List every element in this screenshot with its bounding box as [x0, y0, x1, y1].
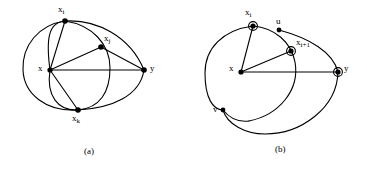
node-xi	[62, 18, 68, 24]
node-xi1	[288, 48, 293, 53]
node-label-xi: xi	[58, 5, 64, 14]
node-label-x: x	[229, 64, 234, 73]
node-xj	[98, 44, 104, 50]
figure-panel-b: x xi u xi+1 y v (b)	[183, 0, 367, 174]
panel-b-caption: (b)	[275, 144, 286, 154]
node-label-xk: xk	[72, 114, 80, 123]
figure-root: x xi xj xk y (a)	[0, 0, 367, 174]
node-xi	[250, 23, 255, 28]
arc-inner-circle-left	[23, 21, 78, 110]
node-label-y: y	[150, 64, 155, 73]
arc-y-bottom-to-v	[223, 72, 338, 134]
node-y	[141, 67, 147, 73]
node-label-xi: xi	[245, 8, 251, 17]
node-label-xi1: xi+1	[296, 38, 310, 47]
node-label-xj: xj	[104, 34, 110, 43]
arc-circle-right-through-u	[249, 26, 296, 121]
node-v	[221, 108, 226, 113]
node-y	[335, 69, 340, 74]
arc-u-to-y	[279, 30, 338, 72]
node-xk	[75, 107, 81, 113]
node-label-u: u	[276, 17, 281, 26]
edge-x-xk	[50, 70, 78, 110]
node-label-y: y	[344, 64, 349, 73]
node-x	[238, 69, 243, 74]
node-u	[277, 28, 282, 33]
arc-left-lower	[223, 110, 249, 121]
figure-panel-a: x xi xj xk y (a)	[0, 0, 184, 174]
edge-x-xj	[50, 47, 101, 70]
edge-x-xi1	[241, 51, 291, 72]
node-x	[47, 67, 52, 72]
node-label-v: v	[213, 105, 218, 114]
panel-a-caption: (a)	[84, 146, 94, 156]
node-label-x: x	[38, 64, 43, 73]
edge-x-xi	[241, 26, 253, 72]
